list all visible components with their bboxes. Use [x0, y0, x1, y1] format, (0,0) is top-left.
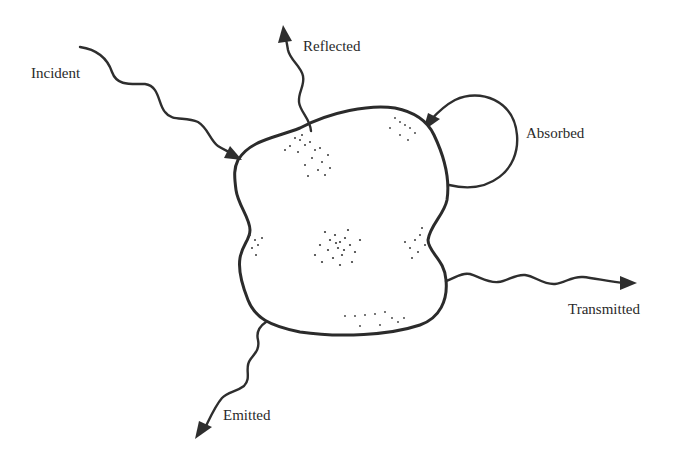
absorbed-label: Absorbed [526, 126, 584, 141]
radiation-interaction-diagram [0, 0, 697, 461]
transmitted-arrow [446, 274, 637, 290]
incident-arrow [80, 47, 242, 160]
reflected-label: Reflected [303, 39, 360, 54]
reflected-arrowhead-icon [278, 25, 292, 43]
emitted-arrowhead-icon [195, 421, 212, 439]
emitted-label: Emitted [223, 408, 271, 423]
material-body [235, 107, 448, 335]
transmitted-arrowhead-icon [620, 276, 637, 290]
incident-arrowhead-icon [224, 146, 242, 160]
incident-label: Incident [31, 66, 80, 81]
transmitted-label: Transmitted [568, 302, 640, 317]
